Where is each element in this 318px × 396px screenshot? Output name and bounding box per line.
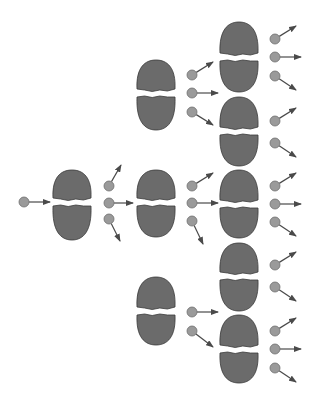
nucleus-lower-lobe [137,314,175,345]
split-nucleus [220,243,258,311]
neutron-particle-icon [187,181,197,191]
nucleus-lower-lobe [220,60,258,92]
neutron-arrow-icon [279,318,296,328]
neutron [270,173,296,191]
neutron-particle-icon [270,181,280,191]
neutron-arrow-icon [279,146,296,157]
neutron-particle-icon [19,197,29,207]
nucleus-lower-lobe [137,205,175,237]
nucleus-upper-lobe [220,243,258,275]
neutron-particle-icon [104,214,114,224]
neutron-arrow-icon [111,223,120,241]
nucleus-lower-lobe [220,134,258,166]
neutron-particle-icon [187,216,197,226]
neutron-particle-icon [270,217,280,227]
neutron [270,252,296,270]
neutron [270,26,296,44]
neutron [270,282,296,301]
neutron-arrow-icon [279,108,296,118]
neutron [187,326,213,347]
nucleus-upper-lobe [137,277,175,310]
split-nucleus [220,170,258,238]
neutron [270,138,296,157]
neutron-particle-icon [270,52,280,62]
split-nucleus [137,170,175,237]
neutron-arrow-icon [279,26,296,36]
fission-chain-diagram [0,0,318,396]
split-nucleus [220,315,258,383]
neutron [187,173,213,191]
neutron-particle-icon [270,116,280,126]
neutron [270,344,301,354]
neutron-particle-icon [187,107,197,117]
neutron-arrow-icon [279,173,296,183]
nucleus-upper-lobe [137,60,175,92]
neutron [104,198,133,208]
neutron-particle-icon [187,198,197,208]
neutron-arrow-icon [196,62,213,72]
nucleus-lower-lobe [53,205,91,240]
neutron [270,318,296,336]
neutron [187,216,203,244]
neutron-particle-icon [104,198,114,208]
neutron-particle-icon [270,344,280,354]
nucleus-upper-lobe [137,170,175,201]
neutron-particle-icon [187,307,197,317]
neutron [19,197,50,207]
neutron-particle-icon [187,326,197,336]
neutron [187,307,218,317]
nucleus-upper-lobe [220,170,258,203]
neutron [270,108,296,126]
neutron [270,217,296,236]
neutron-particle-icon [270,326,280,336]
neutron [104,214,120,241]
neutron-arrow-icon [196,173,213,183]
neutron-arrow-icon [111,165,121,182]
split-nucleus [53,170,91,240]
nucleus-upper-lobe [220,22,258,56]
split-nucleus [137,60,175,130]
neutron-particle-icon [270,34,280,44]
neutron-particle-icon [270,199,280,209]
neutron-arrow-icon [279,290,296,301]
neutron [187,88,218,98]
nucleus-lower-lobe [220,207,258,238]
neutron-particle-icon [270,71,280,81]
neutron-arrow-icon [279,79,296,90]
neutron-particle-icon [270,260,280,270]
nucleus-upper-lobe [220,97,258,130]
neutron [187,107,213,125]
neutron-arrow-icon [196,115,213,125]
neutron [270,363,296,382]
split-nucleus [137,277,175,345]
nucleus-upper-lobe [220,315,258,348]
neutron-arrow-icon [196,334,213,347]
neutron-arrow-icon [279,252,296,262]
nucleus-lower-lobe [220,279,258,311]
neutron [270,199,301,209]
split-nucleus [220,97,258,166]
neutron [270,52,301,62]
neutron [187,198,218,208]
nucleus-lower-lobe [220,352,258,383]
neutron-particle-icon [270,282,280,292]
neutron [187,62,213,80]
neutron [104,165,121,191]
neutron-particle-icon [187,70,197,80]
split-nucleus [220,22,258,92]
neutron-particle-icon [270,138,280,148]
neutron-arrow-icon [194,226,203,244]
neutron [270,71,296,90]
neutron-particle-icon [104,181,114,191]
neutron-arrow-icon [279,371,296,382]
nucleus-upper-lobe [53,170,91,201]
diagram-canvas [0,0,318,396]
nucleus-lower-lobe [137,96,175,130]
nuclei-group [53,22,258,383]
neutron-arrow-icon [279,225,296,236]
neutron-particle-icon [187,88,197,98]
neutron-particle-icon [270,363,280,373]
